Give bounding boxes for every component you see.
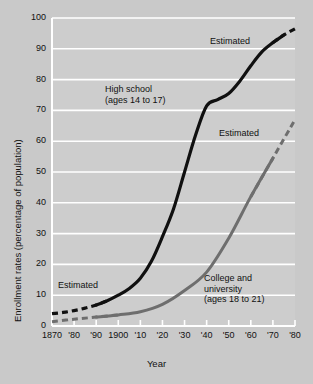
high-school-series-label-line-1: High school [105, 84, 166, 95]
y-axis-tick-label: 90 [14, 44, 46, 53]
y-axis-tick-label: 0 [14, 321, 46, 330]
estimated-college-late: Estimated [219, 128, 259, 139]
college-series-label-line-2: university [204, 284, 265, 295]
plot-canvas [0, 0, 313, 384]
y-axis-tick-label: 10 [14, 290, 46, 299]
y-axis-tick-label: 50 [14, 167, 46, 176]
y-axis-tick-label: 60 [14, 136, 46, 145]
y-axis-tick-label: 100 [14, 13, 46, 22]
x-axis-tick-label: '80 [280, 331, 310, 340]
college-series-label: College anduniversity(ages 18 to 21) [204, 273, 265, 305]
high-school-series-label-line-2: (ages 14 to 17) [105, 95, 166, 106]
x-axis-title: Year [0, 358, 313, 369]
y-axis-tick-label: 30 [14, 229, 46, 238]
college-series-label-line-3: (ages 18 to 21) [204, 294, 265, 305]
y-axis-tick-label: 20 [14, 259, 46, 268]
y-axis-tick-label: 70 [14, 105, 46, 114]
estimated-high-school-early: Estimated [58, 280, 98, 291]
y-axis-tick-label: 80 [14, 75, 46, 84]
estimated-high-school-late: Estimated [210, 36, 250, 47]
high-school-series-label: High school(ages 14 to 17) [105, 84, 166, 105]
y-axis-tick-label: 40 [14, 198, 46, 207]
college-series-label-line-1: College and [204, 273, 265, 284]
enrollment-rates-chart: Enrollment rates (percentage of populati… [0, 0, 313, 384]
